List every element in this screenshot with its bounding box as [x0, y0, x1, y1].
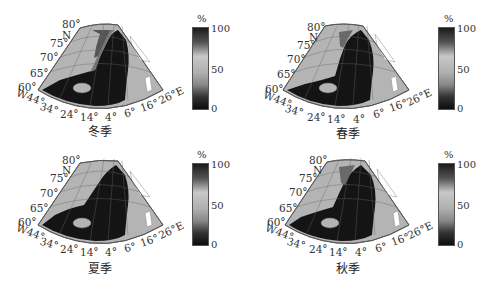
season-title: 春季 [336, 128, 360, 140]
panel-winter: 80° N 75° 70° 65° 60° W44° 34° 24° 14° 4… [0, 0, 243, 144]
season-title: 冬季 [88, 126, 112, 138]
colorbar [192, 163, 209, 246]
colorbar-unit: % [444, 150, 454, 160]
lon-label-14: 14° [80, 247, 99, 258]
panel-spring: 80° N 75° 70° 65° 60° W44° 34° 24° 14° 4… [243, 0, 486, 144]
colorbar-tick-50: 50 [211, 65, 224, 75]
colorbar-unit: % [197, 14, 207, 24]
lat-label-70: 70° [289, 187, 308, 198]
panel-autumn: 80° N 75° 70° 65° 60° W44° 34° 24° 14° 4… [243, 145, 486, 289]
season-title: 秋季 [336, 263, 360, 275]
lat-label-70: 70° [287, 54, 306, 65]
colorbar-tick-0: 0 [457, 104, 463, 114]
lat-label-80: 80° [62, 19, 81, 30]
colorbar [192, 27, 209, 110]
panel-summer: 80° N 75° 70° 65° 60° W44° 34° 24° 14° 4… [0, 145, 243, 289]
colorbar [438, 27, 455, 110]
colorbar-tick-0: 0 [211, 104, 217, 114]
colorbar-unit: % [444, 14, 454, 24]
lat-label-70: 70° [40, 188, 59, 199]
colorbar-tick-100: 100 [457, 160, 476, 170]
colorbar-tick-50: 50 [457, 65, 470, 75]
lon-label-24: 24° [307, 112, 326, 123]
colorbar-tick-100: 100 [211, 160, 230, 170]
lat-label-65: 65° [277, 69, 296, 80]
lon-label-4: 4° [353, 114, 365, 125]
lat-label-75: 75° [50, 173, 69, 184]
lon-label-24: 24° [60, 244, 79, 255]
lon-label-14: 14° [80, 112, 99, 123]
lat-label-75: 75° [297, 40, 316, 51]
lat-label-75: 75° [299, 173, 318, 184]
lat-label-65: 65° [30, 68, 49, 79]
lon-label-14: 14° [327, 114, 346, 125]
lon-label-14: 14° [329, 247, 348, 258]
lat-label-65: 65° [279, 203, 298, 214]
lon-label-4: 4° [105, 112, 117, 123]
lon-label-4: 4° [105, 247, 117, 258]
colorbar-tick-50: 50 [211, 201, 224, 211]
colorbar [438, 163, 455, 246]
colorbar-tick-0: 0 [211, 240, 217, 250]
lon-label-4: 4° [355, 247, 367, 258]
colorbar-tick-100: 100 [457, 24, 476, 34]
lat-label-70: 70° [40, 52, 59, 63]
lon-label-24: 24° [60, 109, 79, 120]
colorbar-unit: % [197, 150, 207, 160]
colorbar-tick-0: 0 [457, 240, 463, 250]
season-title: 夏季 [88, 263, 112, 275]
lon-label-24: 24° [309, 244, 328, 255]
lat-label-75: 75° [50, 38, 69, 49]
colorbar-tick-50: 50 [457, 201, 470, 211]
lat-label-65: 65° [30, 203, 49, 214]
colorbar-tick-100: 100 [211, 24, 230, 34]
